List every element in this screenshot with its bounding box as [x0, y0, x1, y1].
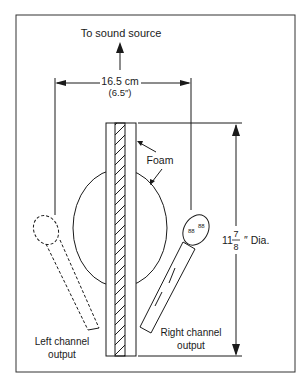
- right-channel-label-line2: output: [177, 340, 205, 351]
- width-imperial-label: (6.5″): [109, 87, 132, 98]
- height-whole: 11: [222, 234, 233, 246]
- foam-label: Foam: [147, 154, 174, 166]
- width-metric-label: 16.5 cm: [101, 75, 139, 87]
- svg-text:88: 88: [188, 228, 195, 234]
- stereo-mic-diagram: To sound source 16.5 cm (6.5″) Foam: [0, 0, 308, 390]
- height-denominator: 8: [233, 242, 238, 252]
- height-suffix: ″ Dia.: [244, 234, 269, 246]
- baffle-plate: [106, 123, 136, 356]
- sound-source-arrow-icon: [116, 42, 124, 70]
- left-channel-label-line2: output: [48, 349, 76, 360]
- right-channel-label-line1: Right channel: [160, 327, 221, 338]
- sound-source-label: To sound source: [81, 27, 162, 39]
- left-channel-label-line1: Left channel: [35, 336, 90, 347]
- height-dimension-label: 11 7 8 ″ Dia.: [222, 229, 269, 252]
- height-numerator: 7: [233, 229, 238, 239]
- svg-text:88: 88: [198, 223, 205, 229]
